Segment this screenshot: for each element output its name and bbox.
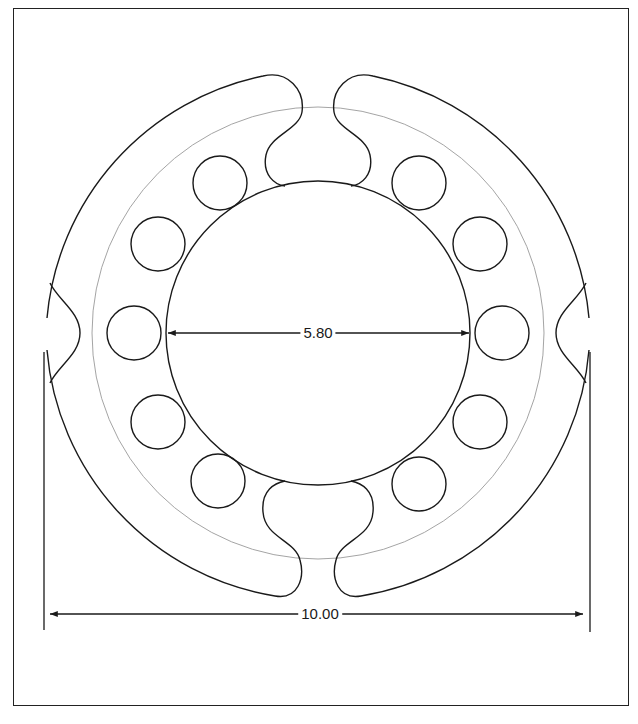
- right-notch: [556, 283, 586, 383]
- bolt-hole: [193, 156, 247, 210]
- bolt-hole: [131, 395, 185, 449]
- inner-diameter-label: 5.80: [300, 325, 335, 341]
- bolt-hole: [392, 457, 446, 511]
- bolt-hole: [191, 454, 245, 508]
- bolt-hole: [475, 306, 529, 360]
- outer-diameter-label: 10.00: [298, 606, 342, 622]
- ring-segment-bottom-right: [334, 350, 589, 596]
- bolt-hole: [453, 217, 507, 271]
- bolt-hole: [392, 156, 446, 210]
- bolt-hole: [453, 395, 507, 449]
- bolt-hole: [131, 217, 185, 271]
- left-notch: [50, 283, 80, 383]
- ring-segment-bottom-left: [47, 350, 302, 596]
- bolt-hole: [107, 306, 161, 360]
